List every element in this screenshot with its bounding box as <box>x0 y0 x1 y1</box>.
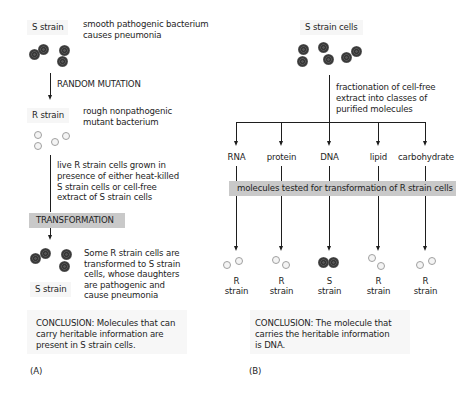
result-letter-dna: S <box>309 276 350 287</box>
result-letter-carbohydrate: R <box>405 276 446 287</box>
result-letter-lipid: R <box>358 276 399 287</box>
panel-b-label: (B) <box>249 366 261 377</box>
fractionation-description: fractionation of cell-free extract into … <box>336 82 435 114</box>
r-cell-icon <box>416 261 424 269</box>
result-s-strain-label: S strain <box>30 282 71 297</box>
r-cell-icon <box>272 256 280 264</box>
r-cell-icon <box>377 262 385 270</box>
arrowhead-icon <box>279 246 283 251</box>
arrowhead-icon <box>234 141 238 146</box>
arrowhead-icon <box>327 141 331 146</box>
r-strain-description: rough nonpathogenic mutant bacterium <box>83 106 172 127</box>
arrowhead-icon <box>327 246 331 251</box>
transformation-arrowhead-icon <box>48 235 52 240</box>
test-bar: molecules tested for transformation of R… <box>229 181 456 196</box>
arrowhead-icon <box>423 246 427 251</box>
fraction-label-carbohydrate: carbohydrate <box>393 152 459 163</box>
r-cell-icon <box>282 261 290 269</box>
arrowhead-icon <box>376 141 380 146</box>
fraction-label-protein: protein <box>256 152 307 163</box>
s-strain-description: smooth pathogenic bacterium causes pneum… <box>83 19 209 40</box>
result-word-carbohydrate: strain <box>405 286 446 297</box>
result-letter-protein: R <box>261 276 302 287</box>
mutation-arrow-line <box>50 73 51 95</box>
s-cell-icon <box>328 257 339 268</box>
r-cell-icon <box>235 257 243 265</box>
conclusion-a-text: CONCLUSION: Molecules that can carry her… <box>36 318 175 350</box>
result-word-rna: strain <box>216 286 257 297</box>
r-cell-icon <box>368 254 376 262</box>
result-word-lipid: strain <box>358 286 399 297</box>
fraction-label-dna: DNA <box>309 152 350 163</box>
s-strain-cells-label: S strain cells <box>300 20 363 35</box>
r-cell-icon <box>223 261 231 269</box>
arrowhead-icon <box>234 246 238 251</box>
mutation-arrowhead-icon <box>48 95 52 100</box>
r-strain-label: R strain <box>27 108 69 123</box>
growth-line <box>50 155 51 212</box>
transformation-arrow-line <box>50 228 51 235</box>
growth-description: live R strain cells grown in presence of… <box>57 160 179 203</box>
transformation-label: TRANSFORMATION <box>29 213 125 228</box>
fractionation-branch-line <box>236 122 425 123</box>
arrowhead-icon <box>376 246 380 251</box>
r-cell-icon <box>428 257 436 265</box>
result-word-dna: strain <box>309 286 350 297</box>
fractionation-trunk-line <box>329 75 330 122</box>
panel-a-label: (A) <box>30 366 42 377</box>
random-mutation-label: RANDOM MUTATION <box>57 79 141 90</box>
transformation-result-description: Some R strain cells are transformed to S… <box>84 248 180 301</box>
fraction-label-rna: RNA <box>216 152 257 163</box>
arrowhead-icon <box>423 141 427 146</box>
conclusion-b-text: CONCLUSION: The molecule that carries th… <box>255 318 391 350</box>
result-letter-rna: R <box>216 276 257 287</box>
arrowhead-icon <box>279 141 283 146</box>
s-strain-label: S strain <box>27 20 68 35</box>
result-word-protein: strain <box>261 286 302 297</box>
